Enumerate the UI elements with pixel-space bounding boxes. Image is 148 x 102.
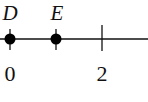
tick-label-0: 0	[5, 61, 16, 86]
point-label-e: E	[50, 1, 64, 25]
tick-label-2: 2	[97, 61, 108, 86]
point-label-d: D	[1, 1, 17, 25]
number-line-diagram: D E 0 2	[0, 0, 148, 102]
point-e	[51, 34, 62, 45]
point-d	[5, 34, 16, 45]
